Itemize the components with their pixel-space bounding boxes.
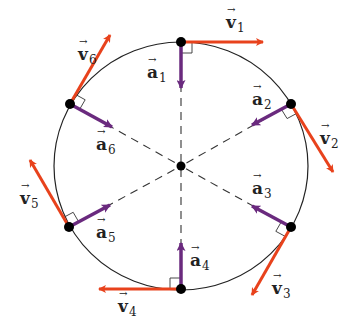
label-a4: a4 <box>190 252 210 269</box>
label-v5: v5 <box>20 190 39 207</box>
label-v4: v4 <box>118 298 137 315</box>
uniform-circular-motion-diagram <box>0 0 357 327</box>
position-point-4 <box>176 284 186 294</box>
label-a1: a1 <box>147 64 167 81</box>
acceleration-vector-3 <box>252 206 291 227</box>
label-a3: a3 <box>252 180 272 197</box>
label-v6: v6 <box>78 46 97 63</box>
position-point-3 <box>286 222 296 232</box>
acceleration-vector-6 <box>70 104 112 127</box>
center-point <box>177 162 186 171</box>
label-v2: v2 <box>320 130 339 147</box>
position-point-2 <box>286 99 296 109</box>
position-point-5 <box>64 222 74 232</box>
position-point-6 <box>65 99 75 109</box>
label-a2: a2 <box>252 91 272 108</box>
label-a6: a6 <box>96 136 116 153</box>
label-a5: a5 <box>96 224 116 241</box>
label-v1: v1 <box>226 14 245 31</box>
label-v3: v3 <box>272 280 291 297</box>
position-point-1 <box>176 37 186 47</box>
